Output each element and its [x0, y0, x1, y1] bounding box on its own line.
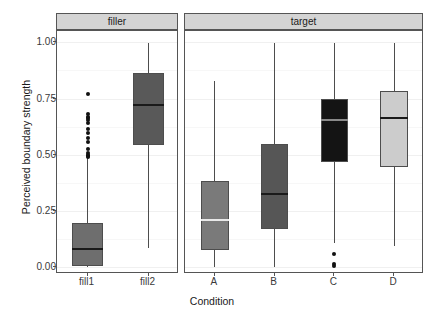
x-tick-label-B: B [270, 276, 277, 287]
x-tick-label-fill1: fill1 [79, 276, 94, 287]
y-tick-label: 0.25 [22, 205, 56, 216]
x-tick-mark [393, 273, 394, 276]
boxplot-figure: Perceived boundary strength 1.000.750.50… [0, 0, 424, 325]
panel-filler [56, 30, 178, 273]
y-tick-label: 0.75 [22, 92, 56, 103]
panel-target-content [185, 31, 422, 272]
x-tick-label-fill2: fill2 [140, 276, 155, 287]
box-iqr [133, 73, 164, 145]
panel-strip-filler-label: filler [108, 16, 126, 27]
x-tick-label-D: D [390, 276, 397, 287]
x-tick-label-A: A [211, 276, 218, 287]
boxplot-D[interactable] [185, 31, 422, 272]
x-tick-mark [148, 273, 149, 276]
x-tick-mark [87, 273, 88, 276]
y-axis-ticks: 1.000.750.500.250.00 [14, 0, 56, 325]
x-axis-title: Condition [0, 295, 424, 307]
x-tick-mark [333, 273, 334, 276]
x-tick-mark [214, 273, 215, 276]
panel-filler-content [57, 31, 177, 272]
median-line [133, 104, 164, 106]
panel-target [184, 30, 423, 273]
boxplot-fill2[interactable] [57, 31, 177, 272]
y-tick-label: 0.50 [22, 148, 56, 159]
x-tick-label-C: C [330, 276, 337, 287]
panel-strip-filler: filler [56, 13, 178, 30]
median-line [380, 117, 407, 119]
x-tick-mark [274, 273, 275, 276]
y-tick-label: 0.00 [22, 261, 56, 272]
panel-strip-target: target [184, 13, 423, 30]
box-iqr [380, 91, 407, 168]
y-tick-label: 1.00 [22, 36, 56, 47]
panel-strip-target-label: target [291, 16, 317, 27]
